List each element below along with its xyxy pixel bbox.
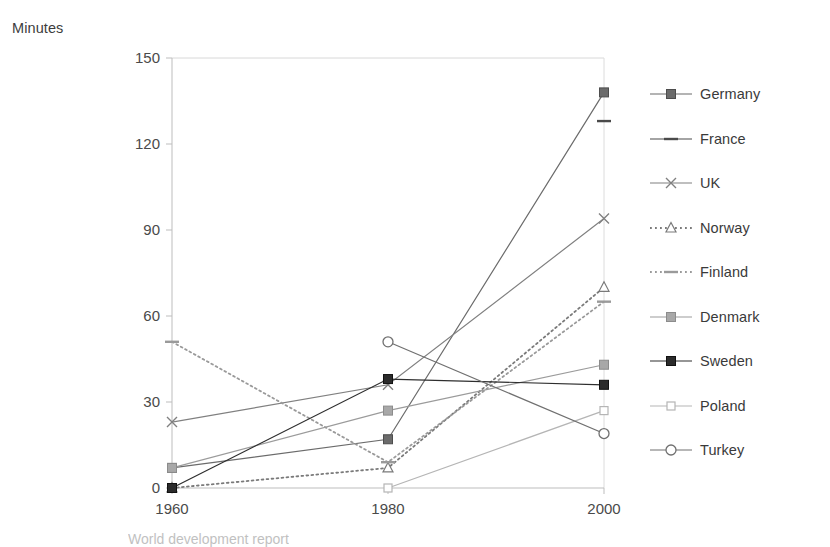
series-norway [167, 282, 609, 492]
data-point-marker [600, 380, 609, 389]
data-point-marker [666, 222, 676, 232]
axis-tick-labels: 0306090120150196019802000 [135, 49, 621, 517]
data-point-marker [384, 406, 393, 415]
series-line [172, 219, 604, 423]
data-point-marker [384, 375, 393, 384]
x-tick-label: 2000 [587, 500, 620, 517]
black-square-icon [648, 351, 694, 371]
series-line [388, 411, 604, 488]
data-point-marker [599, 282, 609, 292]
y-tick-label: 30 [143, 393, 160, 410]
series-turkey [383, 337, 609, 439]
data-point-marker [168, 463, 177, 472]
legend-item-turkey[interactable]: Turkey [648, 428, 828, 473]
chart-legend: GermanyFranceUKNorwayFinlandDenmarkSwede… [648, 72, 828, 473]
data-point-marker [600, 407, 608, 415]
dash-icon [648, 262, 694, 282]
data-point-marker [599, 429, 609, 439]
grey-square-icon [648, 307, 694, 327]
legend-item-label: Turkey [700, 442, 744, 458]
filled-square-icon [648, 84, 694, 104]
legend-item-label: UK [700, 175, 720, 191]
open-square-icon [648, 396, 694, 416]
data-point-marker [384, 484, 392, 492]
legend-item-label: Poland [700, 398, 746, 414]
dash-icon [648, 129, 694, 149]
data-point-marker [667, 402, 675, 410]
legend-item-label: Sweden [700, 353, 753, 369]
open-triangle-icon [648, 218, 694, 238]
x-cross-icon [648, 173, 694, 193]
series-layer [165, 88, 611, 493]
legend-item-poland[interactable]: Poland [648, 384, 828, 429]
data-point-marker [667, 357, 676, 366]
series-poland [384, 407, 608, 492]
axes-layer [166, 58, 604, 494]
legend-item-norway[interactable]: Norway [648, 206, 828, 251]
data-point-marker [600, 88, 609, 97]
y-tick-label: 0 [152, 479, 160, 496]
y-tick-label: 60 [143, 307, 160, 324]
y-tick-label: 90 [143, 221, 160, 238]
data-point-marker [168, 484, 177, 493]
legend-item-uk[interactable]: UK [648, 161, 828, 206]
chart-page: Minutes 0306090120150196019802000 German… [0, 0, 830, 547]
data-point-marker [384, 435, 393, 444]
series-sweden [168, 375, 609, 493]
legend-item-finland[interactable]: Finland [648, 250, 828, 295]
data-point-marker [667, 312, 676, 321]
series-uk [167, 214, 609, 428]
legend-item-label: Denmark [700, 309, 760, 325]
legend-item-denmark[interactable]: Denmark [648, 295, 828, 340]
legend-item-sweden[interactable]: Sweden [648, 339, 828, 384]
y-tick-label: 150 [135, 49, 160, 66]
legend-item-label: Finland [700, 264, 748, 280]
data-point-marker [383, 462, 393, 472]
legend-item-france[interactable]: France [648, 117, 828, 162]
x-tick-label: 1960 [155, 500, 188, 517]
chart-caption: World development report [128, 531, 289, 547]
series-line [172, 287, 604, 488]
x-tick-label: 1980 [371, 500, 404, 517]
legend-item-label: France [700, 131, 746, 147]
y-tick-label: 120 [135, 135, 160, 152]
legend-item-germany[interactable]: Germany [648, 72, 828, 117]
data-point-marker [666, 445, 676, 455]
open-circle-icon [648, 440, 694, 460]
legend-item-label: Norway [700, 220, 750, 236]
legend-item-label: Germany [700, 86, 760, 102]
data-point-marker [600, 360, 609, 369]
data-point-marker [667, 90, 676, 99]
data-point-marker [383, 337, 393, 347]
